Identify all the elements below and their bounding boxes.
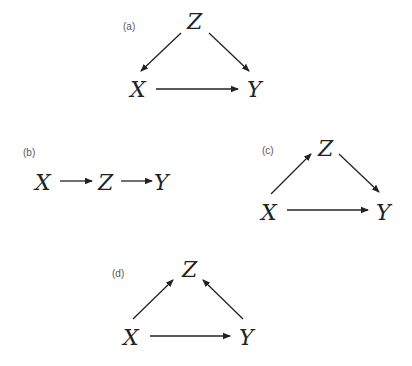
panel-b: (b) X Z Y [23,147,171,195]
edge-z-to-y [339,154,379,192]
panel-c: (c) Z X Y [259,136,393,225]
panel-label-a: (a) [123,21,135,32]
panel-label-b: (b) [23,147,35,158]
node-z: Z [186,9,203,34]
causal-diagrams-figure: (a) Z X Y (b) X Z Y (c) Z X Y (d) Z X Y [0,0,412,366]
edge-z-to-x [141,33,181,71]
node-x: X [128,77,147,102]
panel-d: (d) Z X Y [112,257,256,350]
node-y: Y [239,325,256,350]
edge-x-to-z [271,154,311,194]
node-x: X [121,325,140,350]
node-y: Y [154,170,171,195]
panel-label-c: (c) [262,145,274,156]
panel-label-d: (d) [112,268,124,279]
edge-y-to-z [203,280,243,319]
node-z: Z [317,136,334,161]
panel-a: (a) Z X Y [123,9,264,102]
node-y: Y [247,77,264,102]
node-z: Z [97,170,114,195]
node-x: X [33,170,52,195]
node-x: X [259,200,278,225]
node-z: Z [181,257,198,282]
edge-x-to-z [133,280,173,319]
edge-z-to-y [209,33,249,71]
node-y: Y [376,200,393,225]
